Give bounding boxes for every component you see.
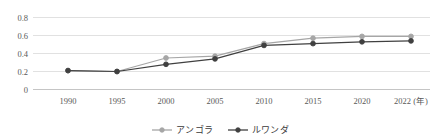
legend-symbol-angola: [151, 125, 173, 135]
series-line: [68, 41, 411, 72]
x-tick-label-2022: 2022 (年): [394, 96, 428, 106]
y-axis-ticks: 0.8 0.6 0.4 0.2 0: [17, 13, 28, 95]
data-point[interactable]: [360, 34, 365, 39]
data-point[interactable]: [311, 36, 316, 41]
x-tick-label-1990: 1990: [60, 96, 77, 106]
data-point[interactable]: [66, 68, 71, 73]
series-rwanda: [66, 39, 414, 74]
x-tick-label-2000: 2000: [158, 96, 175, 106]
x-tick-label-2015: 2015: [305, 96, 322, 106]
chart-plot-area: 0.8 0.6 0.4 0.2 0 1990 1995 2000 2005 20…: [0, 0, 440, 139]
legend-symbol-rwanda: [227, 125, 249, 135]
data-point[interactable]: [360, 39, 365, 44]
y-tick-label-0.8: 0.8: [17, 13, 28, 23]
data-point[interactable]: [164, 62, 169, 67]
chart-legend: アンゴラ ルワンダ: [0, 123, 440, 136]
data-point[interactable]: [262, 43, 267, 48]
y-tick-label-0.2: 0.2: [17, 67, 28, 77]
data-point[interactable]: [311, 41, 316, 46]
gridlines: [33, 18, 430, 90]
y-tick-label-0.4: 0.4: [17, 49, 28, 59]
x-axis-ticks: 1990 1995 2000 2005 2010 2015 2020 2022 …: [60, 96, 429, 106]
legend-label-rwanda: ルワンダ: [252, 123, 289, 136]
y-tick-label-0: 0: [24, 85, 28, 95]
data-point[interactable]: [213, 57, 218, 62]
x-tick-label-1995: 1995: [109, 96, 126, 106]
line-chart: 0.8 0.6 0.4 0.2 0 1990 1995 2000 2005 20…: [0, 0, 440, 139]
data-point[interactable]: [164, 56, 169, 61]
data-point[interactable]: [115, 69, 120, 74]
legend-item-angola[interactable]: アンゴラ: [151, 123, 213, 136]
y-tick-label-0.6: 0.6: [17, 31, 28, 41]
legend-item-rwanda[interactable]: ルワンダ: [227, 123, 289, 136]
data-series-layer: [66, 34, 414, 74]
x-tick-label-2010: 2010: [256, 96, 273, 106]
legend-label-angola: アンゴラ: [176, 123, 213, 136]
x-tick-label-2005: 2005: [207, 96, 224, 106]
x-tick-label-2020: 2020: [354, 96, 371, 106]
data-point[interactable]: [409, 39, 414, 44]
